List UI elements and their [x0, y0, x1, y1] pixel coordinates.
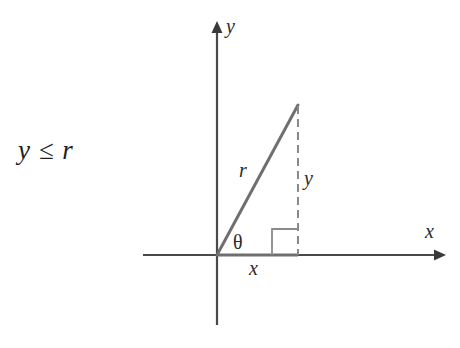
y-axis-label: y: [226, 16, 235, 36]
coordinate-diagram: [0, 0, 460, 348]
angle-label-theta: θ: [233, 232, 243, 252]
adjacent-side-label-x: x: [249, 258, 258, 278]
inequality-expression: y ≤ r: [18, 137, 74, 164]
opposite-side-label-y: y: [304, 168, 313, 188]
x-axis-label: x: [425, 221, 434, 241]
hypotenuse-label-r: r: [239, 160, 247, 180]
diagram-background: [0, 0, 460, 348]
